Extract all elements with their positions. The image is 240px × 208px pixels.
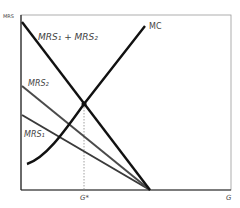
chart-svg: MRS MRS₁ + MRS₂ MRS₂ MRS₁ MC G* G — [0, 0, 240, 208]
y-axis-label: MRS — [3, 13, 14, 19]
mrs-sum-line — [22, 22, 150, 190]
equilibrium-point — [82, 102, 87, 107]
mrs1-label: MRS₁ — [24, 130, 45, 139]
sum-curve-label: MRS₁ + MRS₂ — [38, 32, 98, 42]
mrs1-line — [22, 115, 150, 190]
mc-label: MC — [149, 22, 162, 31]
mrs2-label: MRS₂ — [28, 79, 50, 88]
g-star-label: G* — [80, 194, 89, 202]
mc-curve — [27, 26, 145, 164]
x-axis-label: G — [226, 194, 232, 202]
